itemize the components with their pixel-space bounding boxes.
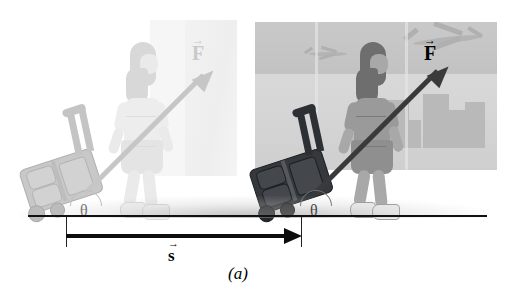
airplane-icon — [403, 24, 487, 56]
vector-arrow-overbar: → — [168, 241, 179, 245]
displacement-tick-start — [66, 217, 67, 247]
skyline-building — [423, 94, 449, 148]
force-label-initial: → F — [192, 38, 204, 63]
displacement-vector-arrowhead — [284, 228, 302, 244]
displacement-label-text: s — [168, 246, 175, 265]
skyline-building — [465, 102, 485, 148]
force-label-text: F — [192, 42, 204, 64]
skyline-building — [449, 110, 465, 148]
ground-line — [28, 215, 487, 217]
physics-figure-work-by-force: → F θ → F — [0, 0, 532, 294]
displacement-label: → s — [168, 241, 179, 266]
skyline-building — [409, 120, 421, 148]
force-label-final: → F — [424, 38, 436, 63]
figure-caption: (a) — [228, 264, 248, 284]
force-label-text: F — [424, 42, 436, 64]
